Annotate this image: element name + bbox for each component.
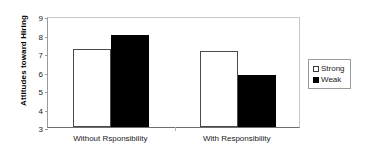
y-axis-tick-mark bbox=[45, 92, 48, 93]
bar-strong-group-1 bbox=[73, 49, 111, 127]
bar-strong-group-2 bbox=[200, 51, 238, 127]
y-axis-tick-label: 3 bbox=[39, 125, 43, 134]
legend-item-weak: Weak bbox=[313, 74, 345, 85]
y-axis-tick-mark bbox=[45, 55, 48, 56]
y-axis-tick-mark bbox=[45, 129, 48, 130]
filled-square-icon bbox=[313, 77, 319, 83]
legend-label: Weak bbox=[321, 75, 341, 84]
y-axis-tick-label: 4 bbox=[39, 106, 43, 115]
y-axis-tick-label: 7 bbox=[39, 51, 43, 60]
bar-weak-group-1 bbox=[111, 35, 149, 128]
legend-label: Strong bbox=[321, 64, 345, 73]
y-axis-tick-label: 9 bbox=[39, 14, 43, 23]
legend-item-strong: Strong bbox=[313, 63, 345, 74]
y-axis-tick-mark bbox=[45, 111, 48, 112]
y-axis-tick-label: 6 bbox=[39, 69, 43, 78]
bar-chart-figure: Attitudes toward Hiring 9876543 Without … bbox=[0, 0, 373, 152]
x-axis-category-label: With Responsibility bbox=[203, 134, 271, 143]
open-square-icon bbox=[313, 66, 319, 72]
y-axis-tick-mark bbox=[45, 37, 48, 38]
x-axis-category-label: Without Rsponsibility bbox=[73, 134, 147, 143]
y-axis-tick-label: 5 bbox=[39, 88, 43, 97]
plot-area: 9876543 bbox=[47, 17, 300, 128]
x-axis-category-divider bbox=[175, 127, 176, 131]
y-axis-tick-mark bbox=[45, 74, 48, 75]
bar-weak-group-2 bbox=[238, 75, 276, 127]
y-axis-title: Attitudes toward Hiring bbox=[19, 0, 28, 131]
y-axis-tick-mark bbox=[45, 18, 48, 19]
y-axis-tick-label: 8 bbox=[39, 32, 43, 41]
chart-legend: StrongWeak bbox=[308, 59, 351, 89]
